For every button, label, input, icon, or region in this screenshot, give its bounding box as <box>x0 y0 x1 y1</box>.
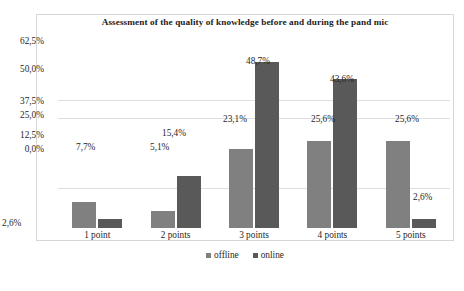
bar-value-label: 15,4% <box>162 128 186 138</box>
bar-online <box>333 79 357 228</box>
legend-swatch-icon <box>206 253 211 258</box>
bar-offline <box>307 141 331 228</box>
bar-value-label: 2,6% <box>413 192 432 202</box>
x-axis-tick-label: 1 point <box>58 230 136 240</box>
legend-swatch-icon <box>253 253 258 258</box>
y-axis: 62,5%50,0%37,5%25,0%12,5%0,0% <box>0 0 44 291</box>
bar-offline <box>72 202 96 228</box>
bar-offline <box>386 141 410 228</box>
bar-group <box>372 26 450 228</box>
bar-online <box>177 176 201 228</box>
bar-group <box>58 26 136 228</box>
bar-group <box>293 26 371 228</box>
y-axis-tick-label: 0,0% <box>2 144 44 154</box>
bar-value-label: 23,1% <box>223 114 247 124</box>
y-axis-tick-label: 25,0% <box>2 110 44 120</box>
bar-value-label: 48,7% <box>246 56 270 66</box>
x-axis-tick-label: 3 points <box>215 230 293 240</box>
bar-value-label: 5,1% <box>150 142 169 152</box>
bar-value-label: 25,6% <box>395 114 419 124</box>
plot-area: 7,7%2,6%5,1%15,4%23,1%48,7%25,6%43,6%25,… <box>58 26 450 228</box>
bar-online <box>255 62 279 228</box>
bar-offline <box>151 211 175 228</box>
x-axis-tick-label: 5 points <box>372 230 450 240</box>
bar-online <box>412 219 436 228</box>
bar-value-label: 7,7% <box>76 142 95 152</box>
x-axis-tick-label: 2 points <box>136 230 214 240</box>
bar-value-label: 25,6% <box>311 114 335 124</box>
legend-label: online <box>261 250 284 260</box>
legend-label: offline <box>214 250 239 260</box>
chart-legend: offlineonline <box>36 250 454 260</box>
y-axis-tick-label: 12,5% <box>2 130 44 140</box>
x-axis-tick-label: 4 points <box>293 230 371 240</box>
bar-value-label: 43,6% <box>330 74 354 84</box>
y-axis-tick-label: 37,5% <box>2 96 44 106</box>
y-axis-tick-label: 50,0% <box>2 64 44 74</box>
bar-online <box>98 219 122 228</box>
scan-artifact-band <box>0 0 464 12</box>
bar-offline <box>229 149 253 228</box>
legend-item[interactable]: online <box>253 250 284 260</box>
bar-value-label: 2,6% <box>2 218 21 228</box>
legend-item[interactable]: offline <box>206 250 239 260</box>
x-axis: 1 point2 points3 points4 points5 points <box>58 230 450 246</box>
bar-group <box>136 26 214 228</box>
y-axis-tick-label: 62,5% <box>2 36 44 46</box>
